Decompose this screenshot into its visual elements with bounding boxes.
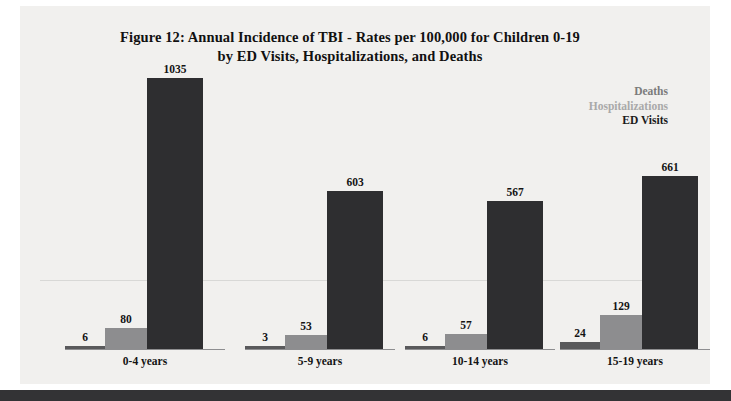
bar-group: 3536035-9 years [245,60,395,350]
bar-value-label: 80 [120,313,132,325]
footer-bar [0,390,731,401]
bar-group: 68010350-4 years [65,60,225,350]
bar-ed-visits: 567 [487,201,543,349]
bar-value-label: 57 [460,319,472,331]
group-baseline [65,349,225,351]
category-label: 0-4 years [65,355,225,367]
bar-value-label: 603 [346,176,363,188]
bar-stack: 353603 [245,61,395,349]
bar-deaths: 6 [65,346,105,349]
bar-value-label: 6 [422,331,428,343]
bar-deaths: 3 [245,346,285,349]
bar-value-label: 661 [661,161,678,173]
category-label: 5-9 years [245,355,395,367]
bar-value-label: 53 [300,320,312,332]
bar-stack: 657567 [405,61,555,349]
bar-stack: 6801035 [65,61,225,349]
bar-value-label: 3 [262,331,268,343]
bar-value-label: 24 [574,327,586,339]
category-label: 15-19 years [560,355,710,367]
plot-area: 68010350-4 years3536035-9 years65756710-… [20,60,710,350]
bar-deaths: 24 [560,342,600,348]
group-baseline [405,349,555,351]
bar-hospitalizations: 57 [445,334,487,349]
bar-value-label: 6 [82,331,88,343]
bar-hospitalizations: 80 [105,328,147,349]
group-baseline [245,349,395,351]
bar-value-label: 1035 [164,63,187,75]
bar-value-label: 567 [506,186,523,198]
figure-title-line-1: Figure 12: Annual Incidence of TBI - Rat… [120,29,580,45]
bar-group: 2412966115-19 years [560,60,710,350]
bar-value-label: 129 [612,300,629,312]
bar-stack: 24129661 [560,61,710,349]
bar-deaths: 6 [405,346,445,349]
group-baseline [560,349,710,351]
bar-hospitalizations: 53 [285,335,327,349]
bar-ed-visits: 603 [327,191,383,348]
category-label: 10-14 years [405,355,555,367]
bar-ed-visits: 1035 [147,78,203,348]
bar-group: 65756710-14 years [405,60,555,350]
figure-page: Figure 12: Annual Incidence of TBI - Rat… [0,0,731,401]
bar-hospitalizations: 129 [600,315,642,349]
bar-ed-visits: 661 [642,176,698,348]
